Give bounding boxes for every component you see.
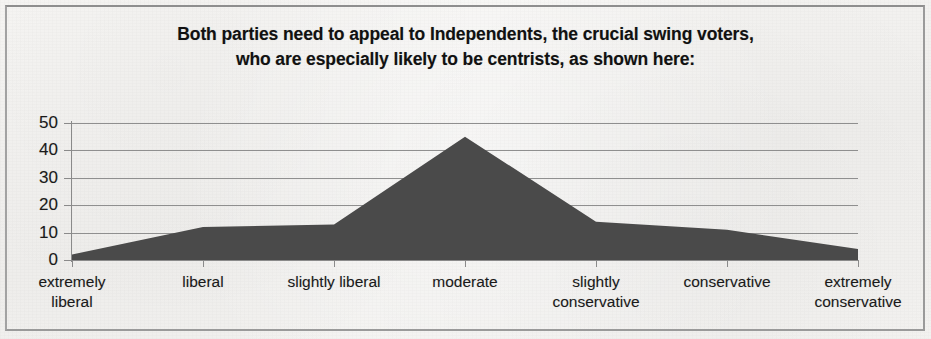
y-axis-label-50: 50 (12, 114, 58, 131)
plot-area (72, 123, 858, 260)
x-axis-label-7-line-2: conservative (780, 292, 931, 312)
chart-title: Both parties need to appeal to Independe… (0, 22, 931, 72)
x-axis-label-1-line-2: liberal (0, 292, 150, 312)
x-tick-mark-4 (465, 260, 466, 267)
area-series-shape (72, 137, 858, 260)
chart-figure: Both parties need to appeal to Independe… (0, 0, 931, 339)
x-tick-mark-5 (596, 260, 597, 267)
y-axis-label-40: 40 (12, 141, 58, 158)
x-axis-label-5-line-2: conservative (518, 292, 674, 312)
y-axis-label-10: 10 (12, 224, 58, 241)
x-axis-label-7: extremelyconservative (780, 272, 931, 312)
y-axis-label-0: 0 (12, 251, 58, 268)
x-axis-ticks (72, 260, 858, 268)
x-tick-mark-7 (858, 260, 859, 267)
x-axis-label-7-line-1: extremely (780, 272, 931, 292)
chart-title-line-2: who are especially likely to be centrist… (0, 47, 931, 72)
y-axis-label-30: 30 (12, 169, 58, 186)
chart-title-line-1: Both parties need to appeal to Independe… (0, 22, 931, 47)
x-tick-mark-6 (727, 260, 728, 267)
area-series (72, 123, 858, 260)
x-tick-mark-1 (72, 260, 73, 267)
y-axis-label-20: 20 (12, 196, 58, 213)
x-tick-mark-3 (334, 260, 335, 267)
x-tick-mark-2 (203, 260, 204, 267)
x-axis-labels: extremelyliberalliberalslightly liberalm… (72, 272, 858, 332)
